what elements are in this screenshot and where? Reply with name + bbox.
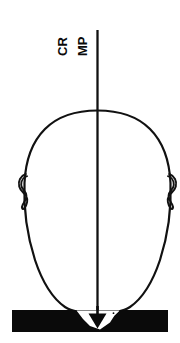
label-mp: MP: [76, 37, 102, 57]
cephalometric-figure: CR MP: [0, 0, 180, 343]
print-speck: [113, 312, 115, 314]
